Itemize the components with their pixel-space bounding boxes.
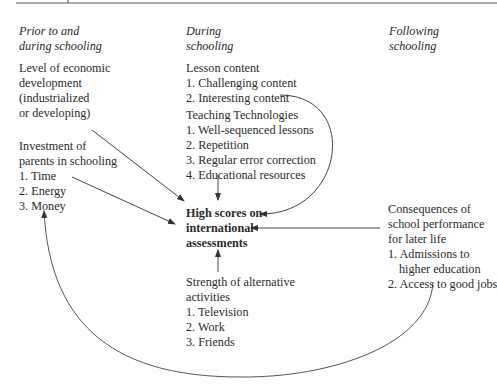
node-teaching-technologies: Teaching Technologies 1. Well-sequenced … (186, 108, 316, 183)
heading-prior-schooling: Prior to and during schooling (19, 24, 102, 54)
node-consequences: Consequences of school performance for l… (388, 202, 497, 292)
list-item: 1. Time (19, 169, 117, 184)
list-item: 1. Challenging content (186, 76, 297, 91)
list-item: 1. Well-sequenced lessons (186, 123, 316, 138)
heading-during-schooling: During schooling (186, 24, 233, 54)
list-item: 3. Regular error correction (186, 153, 316, 168)
list-item-continuation: higher education (388, 262, 497, 277)
list-item: 1. Admissions to (388, 247, 497, 262)
list-item: 3. Money (19, 199, 117, 214)
list-item: 1. Television (186, 305, 295, 320)
list-item: 3. Friends (186, 335, 295, 350)
node-high-scores: High scores on international assessments (186, 206, 262, 251)
list-item: 2. Work (186, 320, 295, 335)
node-alternative-activities: Strength of alternative activities 1. Te… (186, 275, 295, 350)
list-item: 2. Energy (19, 184, 117, 199)
heading-following-schooling: Following schooling (389, 24, 439, 54)
node-economic-development: Level of economic development (industria… (19, 61, 110, 121)
list-item: 4. Educational resources (186, 168, 316, 183)
list-item: 2. Interesting content (186, 91, 297, 106)
node-lesson-content: Lesson content 1. Challenging content 2.… (186, 61, 297, 106)
list-item: 2. Access to good jobs (388, 277, 497, 292)
list-item: 2. Repetition (186, 138, 316, 153)
node-parents-investment: Investment of parents in schooling 1. Ti… (19, 139, 117, 214)
